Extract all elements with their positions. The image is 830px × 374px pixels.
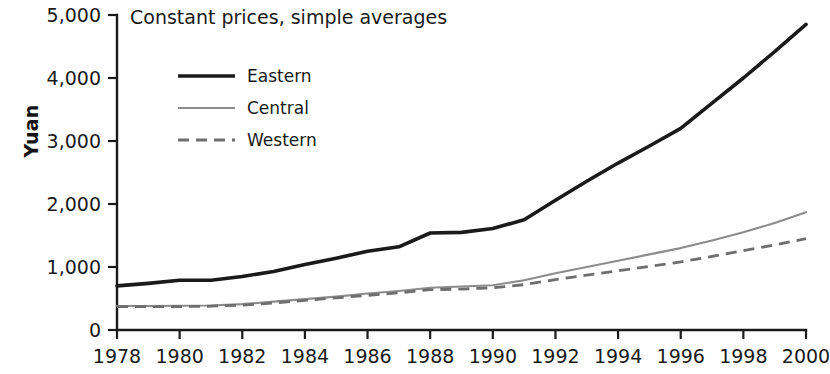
series-line-central xyxy=(117,212,806,306)
x-tick-label: 1996 xyxy=(657,345,705,367)
x-tick-label: 1994 xyxy=(594,345,642,367)
series-line-eastern xyxy=(117,24,806,285)
x-tick-label: 1984 xyxy=(281,345,329,367)
y-axis: 01,0002,0003,0004,0005,000 xyxy=(47,4,117,341)
y-tick-label: 2,000 xyxy=(47,193,101,215)
x-tick-label: 1980 xyxy=(155,345,203,367)
x-axis: 1978198019821984198619881990199219941996… xyxy=(93,330,830,367)
line-chart: Yuan 01,0002,0003,0004,0005,000 19781980… xyxy=(0,0,830,374)
x-tick-label: 1978 xyxy=(93,345,141,367)
x-tick-label: 1998 xyxy=(719,345,767,367)
x-tick-label: 1982 xyxy=(218,345,266,367)
y-tick-label: 3,000 xyxy=(47,130,101,152)
legend: Eastern Central Western xyxy=(178,66,317,150)
legend-label-western: Western xyxy=(247,130,317,150)
chart-title: Constant prices, simple averages xyxy=(130,6,447,28)
y-tick-label: 4,000 xyxy=(47,67,101,89)
y-tick-label: 5,000 xyxy=(47,4,101,26)
legend-label-central: Central xyxy=(247,98,309,118)
series-lines xyxy=(117,24,806,306)
x-tick-label: 1992 xyxy=(531,345,579,367)
y-tick-label: 1,000 xyxy=(47,256,101,278)
series-line-western xyxy=(117,239,806,307)
x-tick-label: 1990 xyxy=(469,345,517,367)
x-tick-label: 1988 xyxy=(406,345,454,367)
y-tick-label: 0 xyxy=(89,319,101,341)
x-tick-label: 2000 xyxy=(782,345,830,367)
legend-label-eastern: Eastern xyxy=(247,66,312,86)
x-tick-label: 1986 xyxy=(343,345,391,367)
